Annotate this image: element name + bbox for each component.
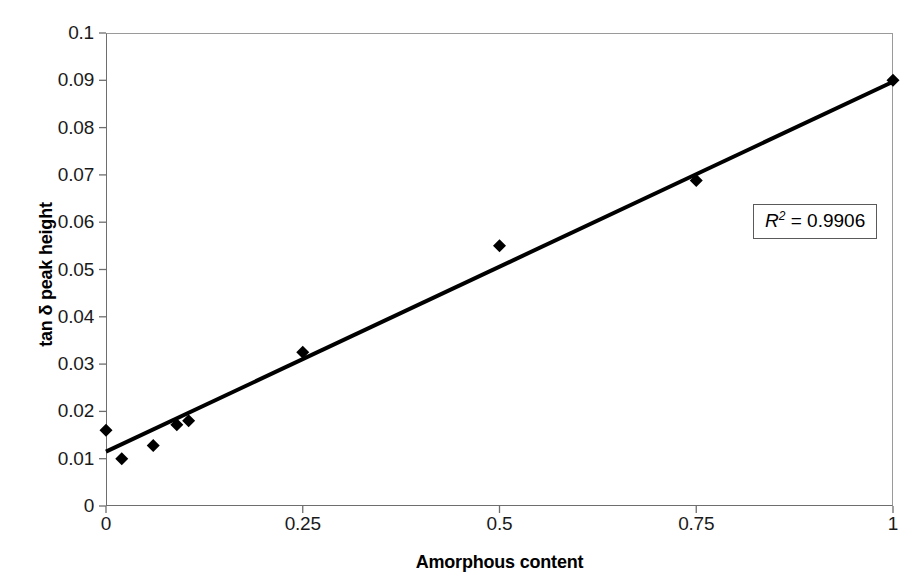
r-squared-annotation: R2 = 0.9906 <box>753 204 877 239</box>
y-axis-tick-labels: 00.010.020.030.040.050.060.070.080.090.1 <box>24 0 94 587</box>
x-tick-label: 0 <box>71 514 141 533</box>
chart-figure: 00.010.020.030.040.050.060.070.080.090.1… <box>0 0 920 587</box>
y-tick-label: 0.1 <box>38 23 94 42</box>
y-tick-label: 0.01 <box>38 449 94 468</box>
x-axis-title: Amorphous content <box>106 552 893 573</box>
r-squared-exponent: 2 <box>779 209 786 223</box>
y-axis-title: tan δ peak height <box>36 145 57 405</box>
y-tick-label: 0.09 <box>38 70 94 89</box>
x-tick-label: 0.25 <box>268 514 338 533</box>
y-axis-ticks <box>99 33 106 506</box>
x-tick-label: 0.5 <box>465 514 535 533</box>
x-tick-label: 1 <box>858 514 920 533</box>
x-axis-ticks <box>106 506 893 513</box>
plot-area <box>106 33 893 506</box>
y-tick-label: 0 <box>38 496 94 515</box>
r-squared-symbol: R <box>765 210 779 231</box>
x-axis-tick-labels: 00.250.50.751 <box>0 514 920 544</box>
r-squared-value: 0.9906 <box>807 210 865 231</box>
x-tick-label: 0.75 <box>661 514 731 533</box>
y-tick-label: 0.08 <box>38 118 94 137</box>
r-squared-equals: = <box>791 210 802 231</box>
